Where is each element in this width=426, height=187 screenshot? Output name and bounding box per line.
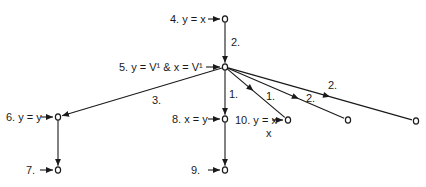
node-label-8: 8. x = y (172, 113, 208, 125)
node-label-5: 5. y = V¹ & x = V¹ (119, 61, 203, 73)
node-n5 (222, 64, 227, 70)
node-label-9: 9. (191, 164, 200, 176)
tree-diagram (0, 0, 426, 187)
edge-label-5-12: 2. (328, 79, 337, 91)
node-n9 (222, 167, 227, 173)
node-n8 (222, 116, 227, 122)
node-label-10: 10. y = x (235, 114, 277, 126)
node-n4 (222, 16, 227, 22)
edge-label-5-11: 2. (306, 92, 315, 104)
edge-label-5-6: 3. (152, 94, 161, 106)
node-n10 (285, 117, 290, 123)
node-n12 (413, 118, 418, 124)
edge-n5-n12 (228, 68, 412, 120)
node-label-4: 4. y = x (170, 13, 206, 25)
node-label-6: 6. y = y (6, 111, 42, 123)
edge-label-5-10: 1. (266, 90, 275, 102)
node-n11 (345, 117, 350, 123)
node-sublabel-10: x (266, 127, 272, 139)
edge-n5-n6 (62, 68, 222, 116)
edge-label-5-8: 1. (229, 88, 238, 100)
node-n6 (55, 114, 60, 120)
edge-label-4-5: 2. (231, 36, 240, 48)
node-n7 (55, 167, 60, 173)
edge-n5-n11 (228, 68, 344, 118)
node-label-7: 7. (26, 164, 35, 176)
